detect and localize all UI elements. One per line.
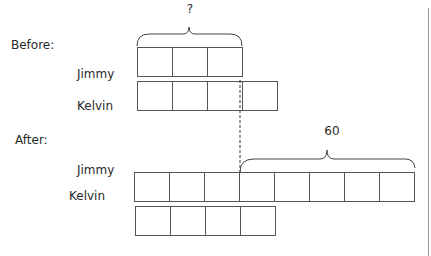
diagram-overlay: [0, 0, 431, 256]
before-brace-icon: [137, 27, 242, 46]
after-brace-icon: [240, 150, 415, 172]
